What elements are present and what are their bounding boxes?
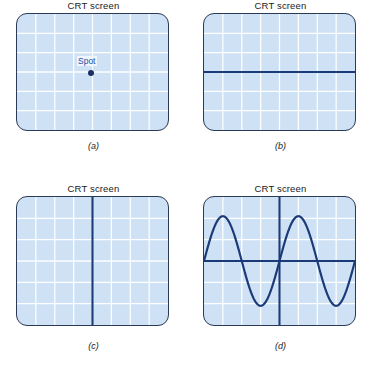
panel-c: CRT screen — [0, 183, 187, 365]
panel-b: CRT screen — [187, 0, 374, 182]
panel-d: CRT screen — [187, 183, 374, 365]
spot-dot — [88, 70, 94, 76]
panel-b-caption: (b) — [187, 141, 374, 151]
panel-c-caption: (c) — [0, 341, 187, 351]
panel-c-title: CRT screen — [0, 183, 187, 195]
panel-a-caption: (a) — [0, 141, 187, 151]
panel-c-crt-screen — [16, 196, 169, 326]
panel-b-crt-screen — [203, 13, 356, 131]
spot-label: Spot — [77, 56, 97, 66]
panel-d-graticule — [204, 197, 355, 325]
panel-d-crt-screen — [203, 196, 356, 326]
panel-a-title: CRT screen — [0, 0, 187, 12]
panel-b-graticule — [204, 14, 355, 130]
panel-c-graticule — [17, 197, 168, 325]
panel-d-title: CRT screen — [187, 183, 374, 195]
panel-d-caption: (d) — [187, 341, 374, 351]
crt-screen-figure: CRT screen Spot — [0, 0, 374, 365]
panel-b-title: CRT screen — [187, 0, 374, 12]
panel-a: CRT screen Spot — [0, 0, 187, 182]
